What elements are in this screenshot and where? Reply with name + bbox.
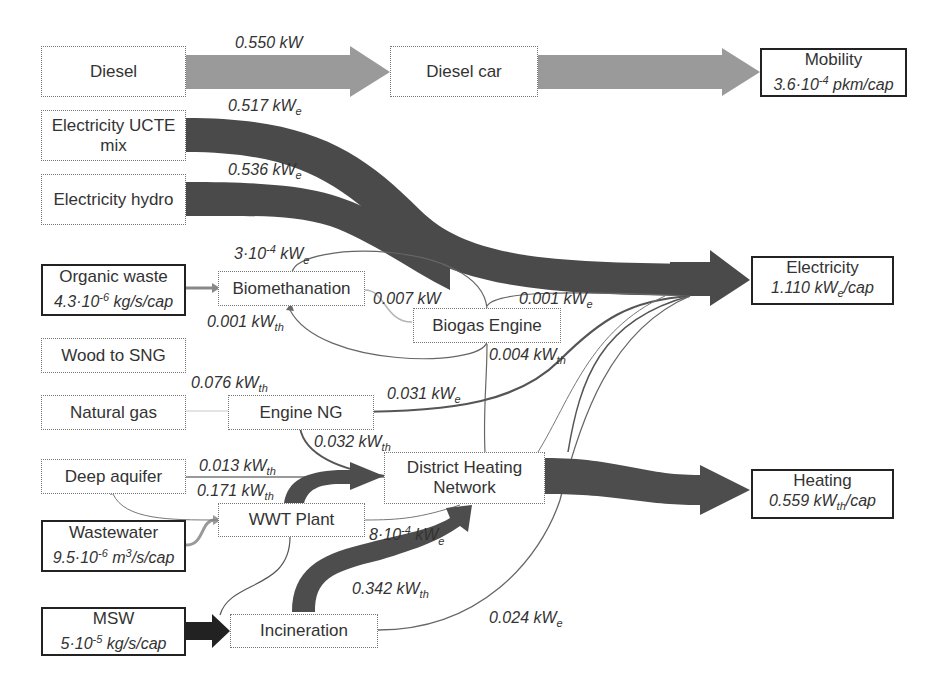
label-engine-ng-elec: 0.031 kWe (387, 385, 461, 405)
label-hydro-flow: 0.536 kWe (228, 161, 302, 181)
dhn-elec-line-2 (568, 296, 690, 452)
node-diesel: Diesel (41, 46, 186, 97)
node-msw: MSW 5·10-5 kg/s/cap (41, 607, 186, 656)
label-biomethanation-heat: 0.001 kWth (207, 313, 284, 333)
node-label: Wastewater (69, 523, 158, 543)
node-value: 0.559 kWth/cap (769, 491, 876, 516)
node-value: 9.5·10-6 m3/s/cap (53, 543, 175, 568)
node-label: Organic waste (59, 267, 168, 287)
biogas-heat-line (484, 344, 487, 452)
wwt-heat-band (284, 462, 384, 503)
msw-flow-arrow (186, 614, 230, 648)
node-label: Electricity hydro (54, 190, 174, 210)
node-label: Diesel car (426, 62, 502, 82)
node-value: 3.6·10-4 pkm/cap (773, 70, 893, 95)
node-wastewater: Wastewater 9.5·10-6 m3/s/cap (41, 520, 186, 572)
node-electricity-ucte: Electricity UCTE mix (41, 110, 186, 161)
node-label: Natural gas (70, 403, 157, 423)
diesel-flow-arrow (186, 46, 390, 97)
diesel-car-flow-arrow (538, 48, 760, 96)
node-biogas-engine: Biogas Engine (413, 308, 561, 343)
node-deep-aquifer: Deep aquifer (41, 459, 186, 494)
node-heating: Heating 0.559 kWth/cap (751, 469, 894, 519)
node-wood-to-sng: Wood to SNG (41, 338, 186, 373)
label-wwt-heat: 0.171 kWth (197, 482, 274, 502)
node-electricity: Electricity 1.110 kWe/cap (751, 256, 894, 305)
label-biomethanation-elec: 3·10-4 kWe (234, 243, 309, 266)
node-value: 1.110 kWe/cap (771, 278, 874, 303)
node-label-line2: mix (100, 136, 126, 156)
label-biogas-flow: 0.007 kW (373, 290, 441, 308)
label-ucte-flow: 0.517 kWe (228, 97, 302, 117)
node-label: Deep aquifer (65, 467, 162, 487)
label-incineration-elec: 0.024 kWe (489, 609, 563, 629)
node-label-line2: Network (433, 478, 495, 498)
node-engine-ng: Engine NG (228, 395, 374, 430)
node-value: 4.3·10-6 kg/s/cap (54, 287, 173, 312)
node-label: Mobility (805, 50, 863, 70)
node-organic-waste: Organic waste 4.3·10-6 kg/s/cap (41, 264, 186, 316)
node-natural-gas: Natural gas (41, 395, 186, 430)
node-mobility: Mobility 3.6·10-4 pkm/cap (760, 48, 907, 97)
node-district-heating: District Heating Network (384, 452, 545, 504)
node-electricity-hydro: Electricity hydro (41, 174, 186, 225)
label-aquifer-heat: 0.013 kWth (199, 457, 276, 477)
node-label: Biogas Engine (432, 316, 542, 336)
node-label: Diesel (90, 62, 137, 82)
node-wwt-plant: WWT Plant (218, 503, 365, 537)
node-biomethanation: Biomethanation (218, 271, 365, 306)
label-incineration-heat: 0.342 kWth (352, 580, 429, 600)
node-label: MSW (93, 609, 135, 629)
node-label: Wood to SNG (61, 346, 166, 366)
node-label: District Heating (407, 458, 522, 478)
node-label: WWT Plant (249, 510, 335, 530)
node-label: Electricity UCTE (52, 116, 176, 136)
node-label: Incineration (260, 621, 348, 641)
node-label: Heating (793, 471, 852, 491)
node-incineration: Incineration (230, 614, 378, 648)
label-ng-flow: 0.076 kWth (191, 374, 268, 394)
wwt-incineration-line (220, 537, 290, 615)
node-diesel-car: Diesel car (390, 46, 538, 97)
label-biogas-elec: 0.001 kWe (519, 290, 593, 310)
label-diesel-flow: 0.550 kW (235, 34, 303, 52)
node-label: Electricity (786, 258, 859, 278)
node-label: Engine NG (259, 403, 342, 423)
dhn-heating-band (545, 458, 750, 515)
node-label: Biomethanation (232, 279, 350, 299)
label-biogas-heat: 0.004 kWth (489, 346, 566, 366)
label-wwt-elec: 8·10-4 kWe (369, 524, 444, 547)
wastewater-flow (186, 520, 215, 545)
wwt-elec-line (365, 505, 460, 520)
label-engine-ng-heat: 0.032 kWth (314, 433, 391, 453)
node-value: 5·10-5 kg/s/cap (61, 629, 167, 654)
